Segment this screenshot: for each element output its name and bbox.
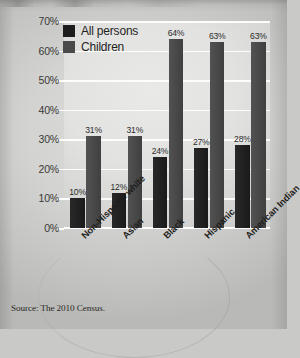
legend-swatch-children bbox=[63, 41, 75, 53]
legend-label-children: Children bbox=[81, 40, 124, 54]
bar-value-label: 31% bbox=[85, 125, 102, 135]
legend-item-all-persons: All persons bbox=[63, 24, 138, 38]
bar-value-label: 12% bbox=[110, 182, 127, 192]
y-tick-label: 20% bbox=[39, 163, 59, 175]
y-tick-label: 70% bbox=[39, 15, 59, 27]
bar-all: 12% bbox=[112, 193, 127, 228]
bar-all: 10% bbox=[70, 198, 85, 228]
bar-value-label: 63% bbox=[250, 31, 267, 41]
bar-all: 28% bbox=[235, 145, 250, 228]
bar-all: 27% bbox=[194, 148, 209, 228]
legend-swatch-all-persons bbox=[63, 25, 75, 37]
bar-value-label: 64% bbox=[168, 28, 185, 38]
bar-value-label: 10% bbox=[69, 187, 86, 197]
y-tick-label: 60% bbox=[39, 44, 59, 56]
legend-item-children: Children bbox=[63, 40, 138, 54]
y-tick-label: 30% bbox=[39, 133, 59, 145]
bar-children: 31% bbox=[86, 136, 101, 228]
bar-value-label: 31% bbox=[126, 125, 143, 135]
scan-artifact-arc bbox=[38, 236, 230, 358]
bar-children: 64% bbox=[169, 39, 184, 228]
bar-children: 31% bbox=[128, 136, 143, 228]
y-tick-label: 0% bbox=[44, 222, 59, 234]
y-tick-label: 10% bbox=[39, 192, 59, 204]
bar-children: 63% bbox=[251, 42, 266, 228]
bar-value-label: 63% bbox=[209, 31, 226, 41]
bar-value-label: 28% bbox=[234, 134, 251, 144]
bar-children: 63% bbox=[210, 42, 225, 228]
bar-all: 24% bbox=[153, 157, 168, 228]
y-tick-label: 50% bbox=[39, 74, 59, 86]
source-note: Source: The 2010 Census. bbox=[11, 303, 105, 313]
bar-value-label: 27% bbox=[193, 137, 210, 147]
legend-label-all-persons: All persons bbox=[81, 24, 138, 38]
y-tick-label: 40% bbox=[39, 103, 59, 115]
bar-value-label: 24% bbox=[152, 146, 169, 156]
chart-legend: All persons Children bbox=[63, 24, 138, 54]
